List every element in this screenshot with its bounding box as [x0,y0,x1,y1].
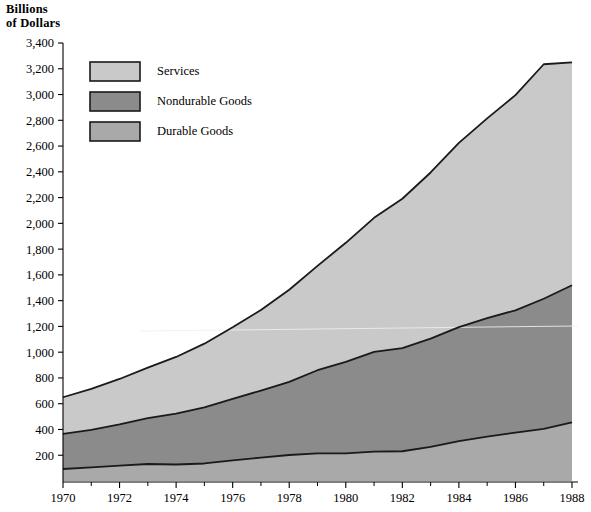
x-axis-ticks [63,482,572,488]
y-axis-tick-labels: 2004006008001,0001,2001,4001,6001,8002,0… [26,36,54,462]
legend-label: Durable Goods [157,124,233,138]
x-tick-label: 1976 [220,491,245,505]
y-tick-label: 600 [35,397,54,411]
y-tick-label: 2,400 [26,165,54,179]
chart-container: Billionsof Dollars 2004006008001,0001,20… [0,0,591,512]
stacked-area-plot: 2004006008001,0001,2001,4001,6001,8002,0… [0,0,591,512]
y-tick-label: 1,600 [26,268,54,282]
x-tick-label: 1988 [560,491,585,505]
x-tick-label: 1986 [503,491,528,505]
y-tick-label: 200 [35,449,54,463]
x-axis-tick-labels: 1970197219741976197819801982198419861988 [51,491,585,505]
y-tick-label: 1,800 [26,243,54,257]
x-tick-label: 1974 [164,491,190,505]
x-tick-label: 1982 [390,491,415,505]
legend-swatch [90,92,140,111]
y-tick-label: 2,800 [26,114,54,128]
x-tick-label: 1984 [446,491,472,505]
x-tick-label: 1972 [107,491,132,505]
y-tick-label: 3,200 [26,62,54,76]
x-tick-label: 1978 [277,491,302,505]
y-tick-label: 1,000 [26,346,54,360]
x-tick-label: 1970 [51,491,76,505]
y-axis-ticks [58,43,63,455]
legend-swatch [90,122,140,141]
y-tick-label: 2,600 [26,139,54,153]
y-tick-label: 1,200 [26,320,54,334]
y-tick-label: 2,000 [26,217,54,231]
y-tick-label: 2,200 [26,191,54,205]
y-tick-label: 400 [35,423,54,437]
y-tick-label: 800 [35,371,54,385]
y-tick-label: 3,000 [26,88,54,102]
chart-legend: ServicesNondurable GoodsDurable Goods [90,62,252,141]
y-tick-label: 1,400 [26,294,54,308]
legend-swatch [90,62,140,81]
legend-label: Services [157,64,199,78]
x-tick-label: 1980 [333,491,358,505]
y-tick-label: 3,400 [26,36,54,50]
legend-label: Nondurable Goods [157,94,252,108]
